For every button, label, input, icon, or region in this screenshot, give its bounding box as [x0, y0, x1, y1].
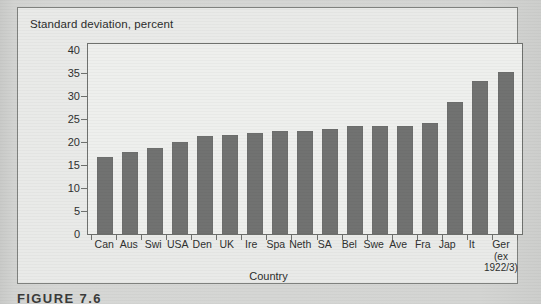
y-axis-tick-label: 30 [58, 90, 80, 102]
x-axis-tick-label: Bel [337, 239, 362, 265]
x-axis-tick-label: Swi [141, 239, 166, 265]
bar [247, 133, 263, 234]
bar-slot [493, 50, 518, 234]
x-axis-tick-mark [317, 235, 318, 240]
y-axis-tick-mark [81, 211, 88, 212]
x-axis-tick-label-text: UK [219, 238, 234, 250]
y-axis-tick-label: 40 [58, 44, 80, 56]
x-axis-tick-mark [492, 235, 493, 240]
x-axis-tick-mark [517, 235, 518, 240]
x-axis-tick-label: Swe [362, 239, 387, 265]
y-axis-tick-label: 25 [58, 113, 80, 125]
x-axis-tick-label: Ave [386, 239, 411, 265]
x-axis-tick-label-text: Ire [245, 238, 257, 250]
y-axis-tick-mark [81, 73, 88, 74]
x-axis-tick-label: It [460, 239, 485, 265]
x-axis-tick-label-text: Den [193, 238, 212, 250]
bar-slot [117, 50, 142, 234]
bar [372, 126, 388, 234]
x-axis-tick-label-text: Can [95, 238, 114, 250]
bar-slot [192, 50, 217, 234]
x-axis-tick-mark [442, 235, 443, 240]
x-axis-tick-label: SA [313, 239, 338, 265]
x-axis-tick-mark [191, 235, 192, 240]
bar [272, 131, 288, 234]
bar [297, 131, 313, 234]
x-axis-tick-mark [342, 235, 343, 240]
x-axis-tick-label: Spa [264, 239, 289, 265]
bar [172, 142, 188, 234]
x-axis-tick-label-text: Neth [289, 238, 311, 250]
x-axis-tick-mark [216, 235, 217, 240]
x-axis-tick-label-text: Bel [342, 238, 357, 250]
y-axis-tick-label: 10 [58, 182, 80, 194]
bar [472, 81, 488, 234]
y-axis-tick-mark [81, 96, 88, 97]
x-axis-tick-mark [266, 235, 267, 240]
x-axis-tick-mark [367, 235, 368, 240]
bar [147, 148, 163, 234]
y-axis-tick-mark [81, 119, 88, 120]
bar-slot [92, 50, 117, 234]
bar [347, 126, 363, 234]
bar-slot [468, 50, 493, 234]
x-axis-tick-label-text: Spa [266, 238, 285, 250]
y-axis-title: Standard deviation, percent [30, 18, 173, 30]
bar-slot [418, 50, 443, 234]
x-axis-tick-labels: CanAusSwiUSADenUKIreSpaNethSABelSweAveFr… [88, 239, 522, 265]
bar-slot [443, 50, 468, 234]
x-axis-tick-label: Fra [411, 239, 436, 265]
x-axis-tick-mark [417, 235, 418, 240]
y-axis-tick-mark [81, 142, 88, 143]
x-axis-tick-mark [141, 235, 142, 240]
x-axis-title: Country [18, 270, 519, 282]
x-axis-tick-mark [241, 235, 242, 240]
x-axis-tick-label: Den [190, 239, 215, 265]
bar-slot [318, 50, 343, 234]
bar-slot [142, 50, 167, 234]
x-axis-tick-mark [291, 235, 292, 240]
bar [447, 102, 463, 234]
figure-caption: FIGURE 7.6 [17, 291, 102, 304]
bar [322, 129, 338, 234]
x-axis-tick-label: Aus [117, 239, 142, 265]
y-axis-tick-label: 20 [58, 136, 80, 148]
y-axis-tick-label: 15 [58, 159, 80, 171]
y-axis-tick-label: 0 [58, 228, 80, 240]
x-axis-tick-mark [467, 235, 468, 240]
bar-slot [343, 50, 368, 234]
x-axis-tick-mark [91, 235, 92, 240]
bar-slot [167, 50, 192, 234]
x-axis-tick-label-text: Swi [145, 238, 162, 250]
x-axis-tick-label-text: USA [167, 238, 189, 250]
x-axis-tick-label-text: It [469, 238, 475, 250]
bar [122, 152, 138, 234]
x-axis-tick-label: Ger(ex1922/3) [484, 239, 518, 265]
bar [97, 157, 113, 234]
bar-slot [368, 50, 393, 234]
x-axis-tick-label: UK [215, 239, 240, 265]
x-axis-tick-label: Jap [435, 239, 460, 265]
x-axis-tick-sublabel: (ex [484, 251, 518, 263]
y-axis-tick-mark [81, 188, 88, 189]
bar-slot [242, 50, 267, 234]
bar [397, 126, 413, 234]
x-axis-tick-label: USA [166, 239, 191, 265]
y-axis-tick-label: 35 [58, 67, 80, 79]
x-axis-tick-label-text: SA [318, 238, 332, 250]
figure-panel: Standard deviation, percent 051015202530… [17, 7, 518, 284]
y-axis-tick-label: 5 [58, 205, 80, 217]
x-axis-tick-label: Neth [288, 239, 313, 265]
bar-slot [267, 50, 292, 234]
bar-slot [293, 50, 318, 234]
x-axis-tick-mark [116, 235, 117, 240]
x-axis-tick-label: Ire [239, 239, 264, 265]
x-axis-tick-label-text: Ger [492, 238, 510, 250]
x-axis-tick-mark [166, 235, 167, 240]
x-axis-tick-mark [392, 235, 393, 240]
bar [422, 123, 438, 234]
bar [222, 135, 238, 234]
bar-slot [217, 50, 242, 234]
bar [498, 72, 514, 234]
x-axis-tick-label-text: Aus [120, 238, 138, 250]
